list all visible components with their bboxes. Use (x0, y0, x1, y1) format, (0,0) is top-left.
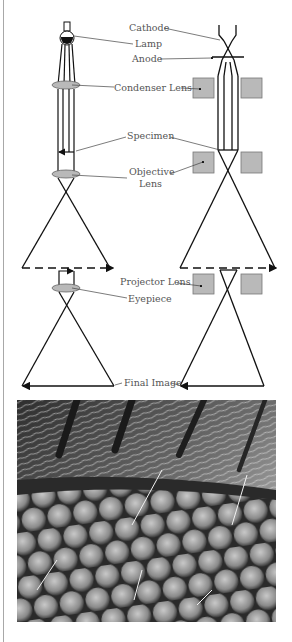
label-objective-line2: Lens (139, 178, 162, 189)
label-cathode: Cathode (129, 22, 170, 33)
cathode-icon (219, 25, 224, 41)
objective-lens-left-icon (52, 170, 80, 178)
lamp-icon (60, 22, 74, 45)
label-eyepiece: Eyepiece (128, 293, 172, 304)
projector-coil-right-icon (241, 274, 262, 294)
label-anode: Anode (131, 53, 163, 64)
microscope-diagram: Cathode Lamp Anode Condenser Lens Specim… (0, 0, 292, 400)
labels: Cathode Lamp Anode Condenser Lens Specim… (72, 22, 220, 388)
projector-coil-left-icon (193, 274, 214, 294)
condenser-coil-left-icon (193, 78, 214, 98)
sem-photo-render (17, 400, 276, 622)
label-condenser-lens: Condenser Lens (114, 82, 192, 93)
label-objective-line1: Objective (129, 166, 175, 177)
label-lamp: Lamp (135, 38, 162, 49)
light-microscope (22, 22, 114, 386)
objective-coil-left-icon (193, 152, 214, 173)
electron-microscope (180, 25, 276, 386)
sem-micrograph-image (17, 400, 276, 622)
label-specimen: Specimen (127, 130, 174, 141)
condenser-coil-right-icon (241, 78, 262, 98)
label-final-image: Final Image (124, 377, 182, 388)
objective-coil-right-icon (241, 152, 262, 173)
label-projector-lens: Projector Lens (120, 276, 191, 287)
eyepiece-icon (52, 284, 80, 292)
